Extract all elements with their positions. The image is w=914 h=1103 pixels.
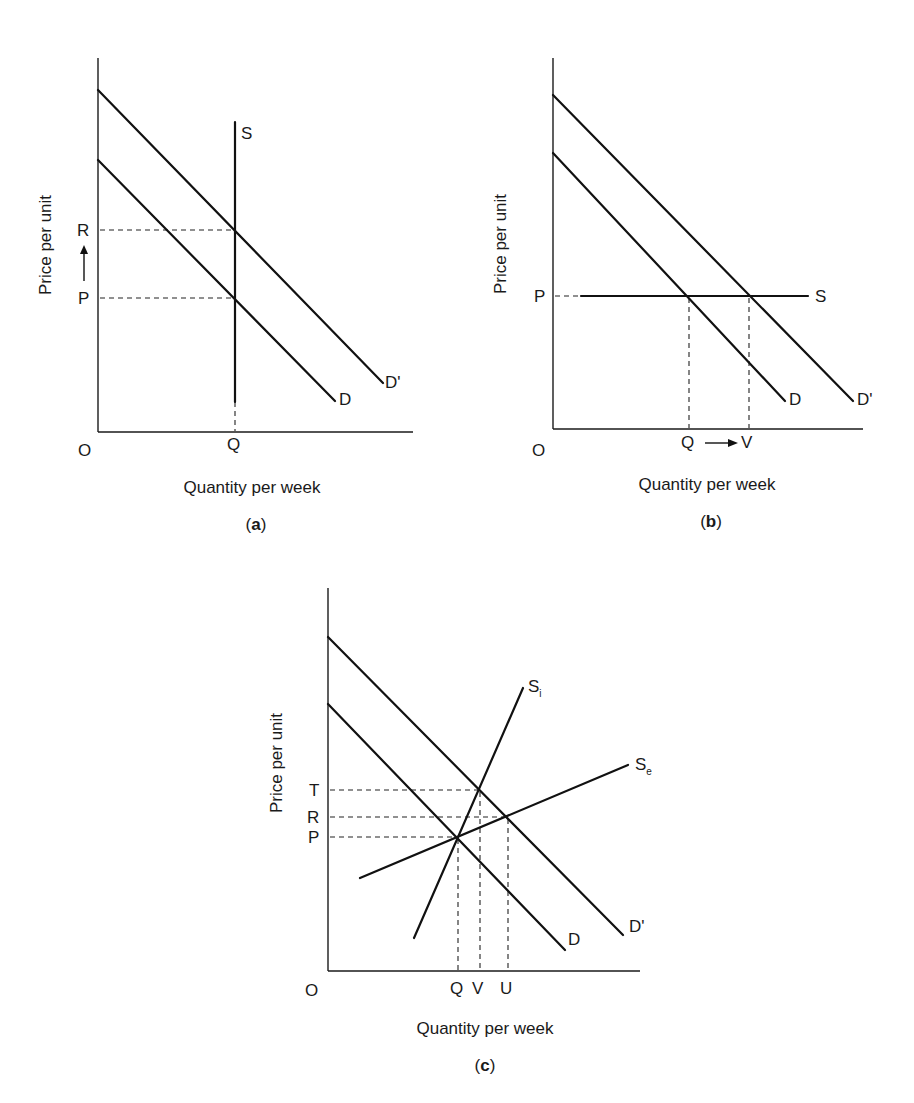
label-origin-c: O (305, 981, 318, 1000)
label-p-c: P (308, 828, 319, 847)
label-d-a: D (339, 390, 351, 409)
panel-c: Si Se D D' T R P Q V U O Price per unit … (267, 588, 652, 1075)
supply-inelastic-curve-c (414, 688, 523, 938)
supply-elastic-curve-c (360, 765, 628, 878)
label-d-c: D (568, 930, 580, 949)
label-r-c: R (307, 808, 319, 827)
panel-b: S D D' P Q V O Price per unit Quantity p… (491, 58, 873, 531)
y-axis-label-b: Price per unit (491, 194, 510, 294)
label-si-c: Si (528, 677, 542, 699)
y-axis-label-a: Price per unit (36, 195, 55, 295)
label-r-a: R (77, 221, 89, 240)
label-q-c: Q (450, 979, 463, 998)
label-dprime-b: D' (857, 390, 873, 409)
label-v-b: V (741, 433, 753, 452)
panel-a: S D' D R P Q O Price per unit Quantity p… (36, 58, 413, 534)
label-origin-a: O (78, 441, 91, 460)
demand-curve-a (98, 160, 335, 401)
x-axis-label-b: Quantity per week (638, 475, 776, 494)
label-dprime-a: D' (385, 373, 401, 392)
y-axis-label-c: Price per unit (267, 713, 286, 813)
label-s-a: S (241, 124, 252, 143)
label-q-a: Q (227, 435, 240, 454)
label-u-c: U (500, 979, 512, 998)
demand-shifted-curve-b (553, 95, 853, 401)
x-axis-label-c: Quantity per week (416, 1019, 554, 1038)
label-q-b: Q (681, 433, 694, 452)
label-p-b: P (534, 287, 545, 306)
label-dprime-c: D' (629, 917, 645, 936)
demand-curve-b (553, 153, 785, 401)
label-t-c: T (309, 781, 319, 800)
label-d-b: D (789, 390, 801, 409)
demand-curve-c (328, 704, 565, 950)
caption-b: (b) (700, 512, 722, 531)
arrow-right-icon (705, 439, 738, 447)
arrow-up-icon (80, 245, 88, 281)
label-p-a: P (78, 289, 89, 308)
caption-a: (a) (246, 515, 267, 534)
label-se-c: Se (635, 755, 652, 777)
caption-c: (c) (475, 1056, 496, 1075)
label-s-b: S (815, 287, 826, 306)
figure: S D' D R P Q O Price per unit Quantity p… (0, 0, 914, 1103)
label-v-c: V (472, 979, 484, 998)
label-origin-b: O (532, 441, 545, 460)
x-axis-label-a: Quantity per week (183, 478, 321, 497)
